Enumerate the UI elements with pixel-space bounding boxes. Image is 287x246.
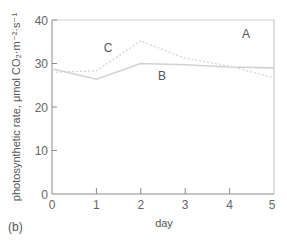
series-label-c: C <box>104 41 113 55</box>
x-tick-label: 0 <box>49 198 56 212</box>
y-tick-label: 10 <box>35 144 49 158</box>
y-tick-label: 20 <box>35 101 49 115</box>
x-tick-label: 5 <box>269 198 276 212</box>
y-tick-label: 0 <box>41 188 48 202</box>
x-axis-title: day <box>155 217 173 229</box>
x-tick-label: 4 <box>226 198 233 212</box>
x-tick-label: 3 <box>182 198 189 212</box>
x-ticks <box>96 188 229 194</box>
series-label-b: B <box>158 69 166 83</box>
x-tick-label: 2 <box>137 198 144 212</box>
x-tick-label: 1 <box>93 198 100 212</box>
y-tick-label: 30 <box>35 57 49 71</box>
y-tick-label: 40 <box>35 14 49 28</box>
panel-label: (b) <box>8 220 23 234</box>
y-axis-title: photosynthetic rate, μmol CO₂·m⁻²·s⁻¹ <box>10 13 22 202</box>
chart: 40 30 20 10 0 0 1 2 3 4 5 day photosynth… <box>0 0 287 246</box>
series-label-a: A <box>242 27 250 41</box>
y-ticks <box>52 20 57 151</box>
